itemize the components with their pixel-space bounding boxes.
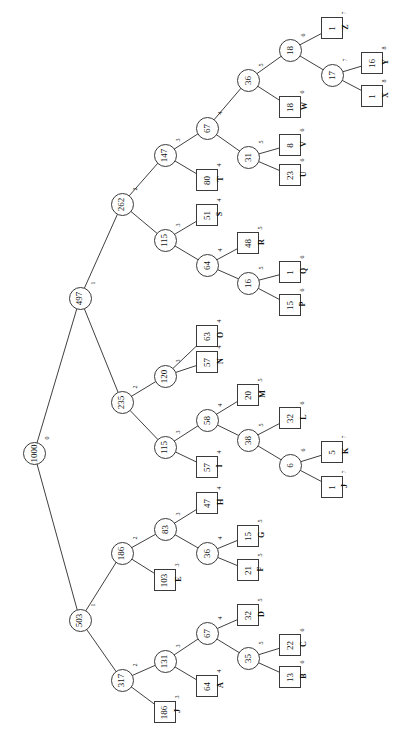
- node-value: 1: [286, 270, 295, 275]
- node-value: 8: [286, 143, 295, 148]
- node-depth-label: 4: [216, 320, 222, 323]
- node-depth-label: 4: [216, 248, 222, 251]
- node-depth-label: 4: [216, 616, 222, 619]
- node-depth-label: 4: [216, 670, 222, 673]
- leaf-label-d: D: [258, 611, 266, 617]
- node-depth-label: 3: [174, 644, 180, 647]
- node-depth-label: 6: [299, 159, 305, 162]
- node-depth-label: 7: [341, 471, 347, 474]
- node-depth-label: 4: [216, 451, 222, 454]
- node-depth-label: 4: [216, 199, 222, 202]
- node-depth-label: 5: [257, 599, 263, 602]
- node-depth-label: 1: [89, 281, 95, 284]
- node-value: 1: [328, 26, 337, 31]
- tree-internal-node: 36: [237, 69, 260, 92]
- node-depth-label: 3: [174, 359, 180, 362]
- tree-leaf-node: 47: [196, 492, 218, 514]
- tree-leaf-node: 1: [279, 261, 301, 283]
- node-value: 115: [160, 233, 169, 246]
- node-value: 67: [203, 124, 212, 133]
- node-depth-label: 5: [257, 554, 263, 557]
- tree-internal-node: 120: [154, 365, 177, 388]
- leaf-label-u: U: [300, 171, 308, 177]
- node-depth-label: 7: [341, 58, 347, 61]
- node-value: 51: [203, 211, 212, 220]
- tree-edge: [34, 453, 80, 620]
- tree-leaf-node: 8: [279, 134, 301, 156]
- node-depth-label: 6: [299, 129, 305, 132]
- node-value: 15: [286, 301, 295, 310]
- node-depth-label: 2: [131, 663, 137, 666]
- tree-leaf-node: 1: [361, 85, 383, 107]
- node-depth-label: 7: [341, 12, 347, 15]
- node-value: 186: [118, 546, 127, 560]
- node-depth-label: 6: [299, 661, 305, 664]
- node-value: 186: [161, 705, 170, 719]
- node-value: 1: [328, 485, 337, 490]
- tree-internal-node: 186: [111, 542, 134, 565]
- node-value: 147: [161, 148, 170, 162]
- leaf-label-l: L: [300, 414, 308, 419]
- node-value: 16: [244, 279, 253, 288]
- node-value: 317: [118, 673, 127, 687]
- node-value: 1000: [30, 444, 39, 462]
- node-value: 18: [286, 103, 295, 112]
- node-value: 48: [244, 239, 253, 248]
- node-value: 31: [244, 153, 253, 162]
- tree-internal-node: 262: [111, 193, 134, 216]
- tree-internal-node: 38: [237, 429, 260, 452]
- node-depth-label: 3: [174, 696, 180, 699]
- tree-leaf-node: 57: [196, 351, 218, 373]
- tree-internal-node: 64: [196, 254, 219, 277]
- node-depth-label: 2: [131, 385, 137, 388]
- node-value: 15: [244, 532, 253, 541]
- tree-leaf-node: 20: [237, 384, 259, 406]
- node-depth-label: 6: [299, 448, 305, 451]
- node-value: 21: [244, 566, 253, 575]
- leaf-label-e: E: [175, 576, 183, 581]
- node-depth-label: 6: [299, 289, 305, 292]
- leaf-label-n: N: [217, 358, 225, 364]
- leaf-label-g: G: [258, 532, 266, 538]
- node-value: 36: [244, 76, 253, 85]
- leaf-label-q: Q: [300, 268, 308, 274]
- tree-internal-node: 36: [196, 542, 219, 565]
- tree-internal-node: 67: [196, 622, 219, 645]
- leaf-label-c: C: [300, 641, 308, 647]
- node-value: 16: [368, 59, 377, 68]
- node-value: 13: [286, 673, 295, 682]
- node-depth-label: 5: [257, 423, 263, 426]
- node-depth-label: 5: [257, 520, 263, 523]
- node-value: 235: [118, 395, 127, 409]
- node-depth-label: 1: [89, 603, 95, 606]
- tree-edge: [80, 204, 122, 298]
- leaf-label-r: R: [258, 239, 266, 245]
- node-depth-label: 6: [299, 91, 305, 94]
- node-value: 32: [286, 414, 295, 423]
- node-value: 36: [203, 549, 212, 558]
- node-value: 57: [203, 463, 212, 472]
- tree-internal-node: 497: [69, 287, 92, 310]
- tree-leaf-node: 23: [279, 164, 301, 186]
- node-depth-label: 6: [299, 629, 305, 632]
- node-value: 5: [328, 450, 337, 455]
- leaf-label-z: Z: [342, 24, 350, 29]
- node-value: 262: [118, 197, 127, 211]
- tree-internal-node: 31: [237, 146, 260, 169]
- node-depth-label: 7: [341, 436, 347, 439]
- node-depth-label: 5: [257, 63, 263, 66]
- tree-leaf-node: 22: [279, 634, 301, 656]
- tree-leaf-node: 18: [279, 96, 301, 118]
- node-value: 23: [286, 171, 295, 180]
- tree-internal-node: 58: [196, 409, 219, 432]
- node-depth-label: 6: [299, 402, 305, 405]
- tree-internal-node: 1000: [23, 442, 46, 465]
- node-value: 20: [244, 391, 253, 400]
- leaf-label-j: J: [174, 709, 182, 713]
- node-value: 80: [203, 176, 212, 185]
- node-value: 1: [368, 94, 377, 99]
- tree-internal-node: 35: [237, 647, 260, 670]
- node-depth-label: 4: [216, 346, 222, 349]
- tree-internal-node: 503: [69, 609, 92, 632]
- leaf-label-w: W: [301, 102, 309, 110]
